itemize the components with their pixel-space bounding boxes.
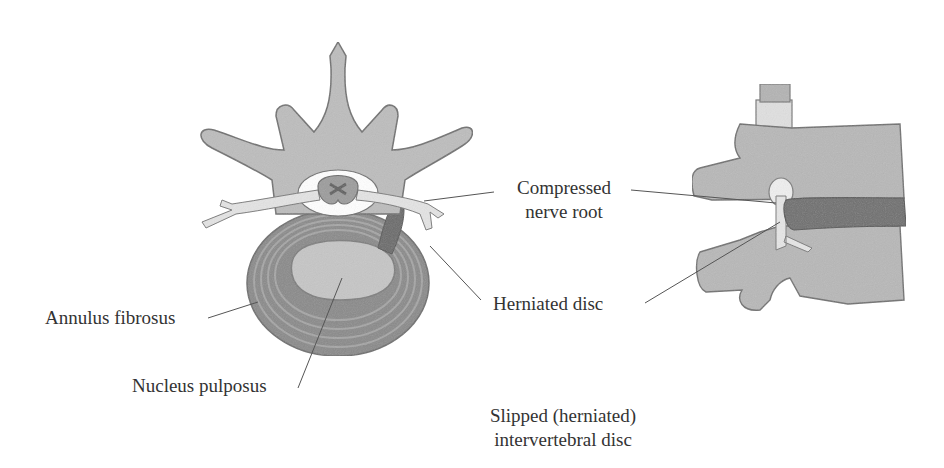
axial-vertebra-view xyxy=(201,42,473,356)
label-annulus-fibrosus: Annulus fibrosus xyxy=(45,306,175,330)
caption-line1: Slipped (herniated) xyxy=(478,404,648,428)
nucleus-pulposus-shape xyxy=(291,241,394,300)
lateral-spine-view xyxy=(692,84,906,310)
leader-compressed-left xyxy=(424,192,494,201)
caption-line2: intervertebral disc xyxy=(478,428,648,452)
figure-caption: Slipped (herniated) intervertebral disc xyxy=(478,404,648,452)
label-nucleus-pulposus: Nucleus pulposus xyxy=(132,374,267,398)
label-herniated-disc: Herniated disc xyxy=(493,292,603,316)
lateral-herniated-disc-shape xyxy=(784,198,906,231)
leader-annulus xyxy=(208,302,258,318)
leader-herniated-left xyxy=(430,246,481,300)
upper-vertebra-shape xyxy=(692,124,904,200)
label-compressed-line1: Compressed xyxy=(496,176,632,200)
label-compressed-nerve-root: Compressed nerve root xyxy=(496,176,632,224)
lower-vertebra-shape xyxy=(697,226,904,310)
label-compressed-line2: nerve root xyxy=(496,200,632,224)
